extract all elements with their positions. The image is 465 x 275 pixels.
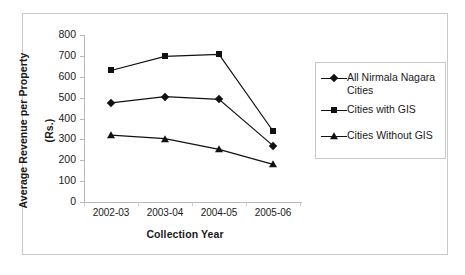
- x-tick-label: 2005-06: [243, 207, 303, 218]
- square-marker: [108, 67, 114, 73]
- legend-label: Cities with GIS: [347, 103, 416, 116]
- x-tick-mark: [300, 202, 301, 206]
- y-tick-label-text: 100: [46, 175, 76, 185]
- y-axis-title-line1: Average Revenue per Property: [17, 53, 29, 209]
- legend-diamond-icon: [330, 74, 338, 82]
- y-tick-label-text: 300: [46, 133, 76, 143]
- x-tick-label: 2003-04: [135, 207, 195, 218]
- triangle-marker: [215, 146, 223, 153]
- square-marker: [270, 128, 276, 134]
- chart-figure: Average Revenue per Property (Rs.) Colle…: [0, 0, 465, 275]
- y-tick-label-text: 700: [46, 50, 76, 60]
- x-tick-mark: [192, 202, 193, 206]
- y-tick-label-text: 500: [46, 92, 76, 102]
- x-axis-line: [84, 202, 302, 203]
- series-line-0: [111, 97, 273, 146]
- x-axis-title: Collection Year: [60, 228, 310, 240]
- square-marker: [162, 53, 168, 59]
- legend-marker-square: [321, 104, 347, 116]
- legend-entry-2[interactable]: Cities Without GIS: [321, 129, 433, 142]
- legend-marker-diamond: [321, 72, 347, 84]
- x-tick-label: 2002-03: [81, 207, 141, 218]
- series-line-2: [111, 135, 273, 164]
- triangle-marker: [269, 161, 277, 168]
- legend-triangle-icon: [330, 132, 338, 139]
- square-marker: [216, 51, 222, 57]
- x-tick-mark: [138, 202, 139, 206]
- series-lines: [84, 35, 300, 202]
- x-tick-mark: [246, 202, 247, 206]
- legend-entry-1[interactable]: Cities with GIS: [321, 103, 416, 116]
- x-tick-mark: [84, 202, 85, 206]
- y-tick-label-text: 0: [46, 196, 76, 206]
- triangle-marker: [161, 135, 169, 142]
- legend-marker-triangle: [321, 130, 347, 142]
- y-tick-label-text: 600: [46, 71, 76, 81]
- y-tick-label-text: 800: [46, 29, 76, 39]
- legend-entry-0[interactable]: All Nirmala Nagara Cities: [321, 71, 435, 96]
- y-tick-label-text: 200: [46, 154, 76, 164]
- triangle-marker: [107, 131, 115, 138]
- plot-area: [84, 35, 300, 202]
- series-line-1: [111, 54, 273, 131]
- legend-label: All Nirmala Nagara Cities: [347, 71, 435, 96]
- x-tick-label: 2004-05: [189, 207, 249, 218]
- y-tick-label-text: 400: [46, 113, 76, 123]
- chart-legend: All Nirmala Nagara CitiesCities with GIS…: [315, 62, 446, 159]
- legend-label: Cities Without GIS: [347, 129, 433, 142]
- legend-square-icon: [331, 107, 337, 113]
